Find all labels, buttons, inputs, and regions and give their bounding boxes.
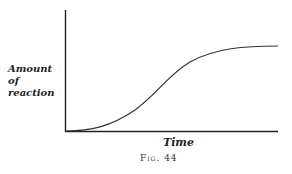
x-axis-label: Time bbox=[163, 136, 194, 149]
y-axis-label: Amount of reaction bbox=[8, 63, 64, 99]
y-axis-label-line-2: of reaction bbox=[8, 75, 64, 99]
figure-caption: Fig. 44 bbox=[140, 153, 178, 163]
reaction-curve bbox=[66, 46, 278, 131]
y-axis-label-line-1: Amount bbox=[8, 63, 64, 75]
